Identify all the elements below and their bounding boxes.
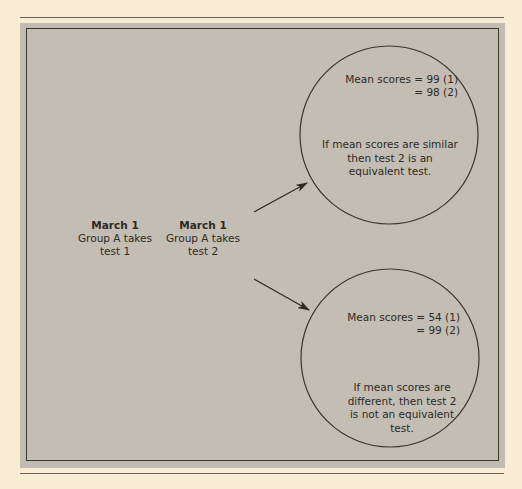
step-date: March 1 <box>158 219 248 232</box>
step-text: Group A takes <box>158 232 248 245</box>
arrow-up-icon <box>254 183 307 212</box>
conclusion-different: If mean scores are different, then test … <box>340 381 464 435</box>
bottom-rule <box>20 473 504 474</box>
arrow-down-icon <box>254 279 309 310</box>
conclusion-similar: If mean scores are similar then test 2 i… <box>320 138 460 179</box>
mean-scores-different: Mean scores = 54 (1) = 99 (2) <box>332 311 460 337</box>
conclusion-line: is not an equivalent <box>340 408 464 422</box>
step-date: March 1 <box>70 219 160 232</box>
mean-line: = 99 (2) <box>332 324 460 337</box>
conclusion-line: equivalent test. <box>320 165 460 179</box>
step-text: Group A takes <box>70 232 160 245</box>
step-text: test 2 <box>158 245 248 258</box>
conclusion-line: If mean scores are <box>340 381 464 395</box>
step-test-1: March 1 Group A takes test 1 <box>70 219 160 258</box>
conclusion-line: If mean scores are similar <box>320 138 460 152</box>
step-text: test 1 <box>70 245 160 258</box>
mean-line: Mean scores = 54 (1) <box>332 311 460 324</box>
step-test-2: March 1 Group A takes test 2 <box>158 219 248 258</box>
conclusion-line: different, then test 2 <box>340 395 464 409</box>
mean-scores-similar: Mean scores = 99 (1) = 98 (2) <box>330 73 458 99</box>
conclusion-line: then test 2 is an <box>320 152 460 166</box>
conclusion-line: test. <box>340 422 464 436</box>
mean-line: Mean scores = 99 (1) <box>330 73 458 86</box>
mean-line: = 98 (2) <box>330 86 458 99</box>
